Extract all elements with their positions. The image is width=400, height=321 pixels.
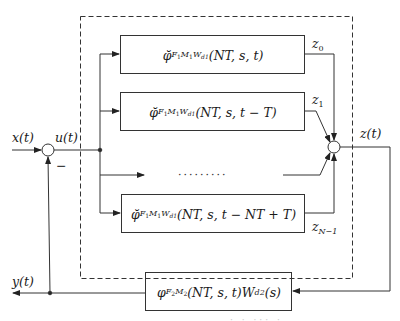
- input-label: x(t): [12, 132, 34, 145]
- feedback-to-sum: [48, 157, 50, 293]
- feedback-label: y(t): [12, 276, 34, 289]
- output-path: [293, 147, 390, 291]
- z0-label: z0: [312, 38, 324, 53]
- right-summing-junction: [328, 141, 340, 153]
- output-label: z(t): [360, 128, 381, 141]
- z1-label: z1: [312, 94, 324, 109]
- control-label: u(t): [55, 132, 78, 145]
- left-summing-junction: [42, 144, 54, 156]
- block-2: φ̆F1M1Wd1(NT, s, t − T): [121, 93, 305, 131]
- minus-sign: −: [56, 160, 66, 173]
- zn1-path: [305, 154, 334, 213]
- zn1-label: zN−1: [312, 221, 337, 236]
- z1-path: [305, 111, 330, 142]
- ellipsis: ·········: [178, 169, 227, 182]
- block-1: φ̆F1M1Wd1(NT, s, t): [121, 36, 305, 74]
- ellipsis-path: [283, 153, 330, 175]
- feedback-block: φF2M2(NT, s, t)Wd2(s): [146, 273, 292, 311]
- caption-fragment: · · ··· ·: [230, 315, 283, 321]
- block-n: φ̆F1M1Wd1(NT, s, t − NT + T): [122, 195, 305, 233]
